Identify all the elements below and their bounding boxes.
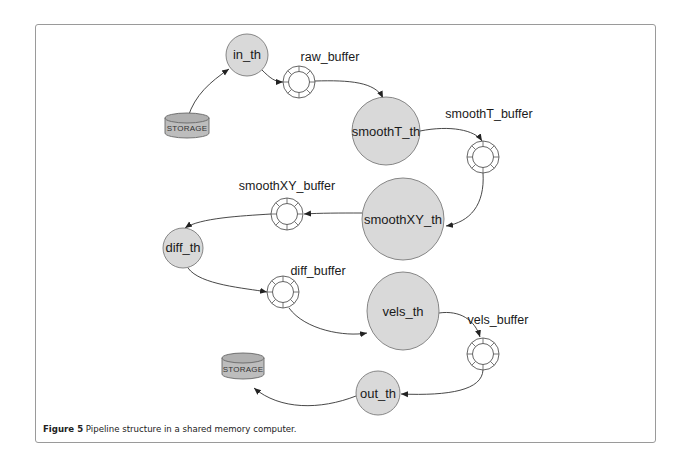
thread-vels-th: vels_th [367, 272, 439, 350]
storage-in-label: STORAGE [167, 124, 207, 133]
thread-smoothxy-th: smoothXY_th [362, 178, 444, 260]
edge-in-th-raw-buffer [262, 70, 283, 82]
edge-storage-in-th [188, 69, 229, 117]
vels-th-label: vels_th [382, 304, 423, 319]
buffer-diff: diff_buffer [267, 264, 346, 308]
out-th-label: out_th [360, 386, 396, 401]
in-th-label: in_th [233, 47, 261, 62]
edge-smootht-buffer [420, 128, 482, 141]
edge-diff-buffer-vels [289, 308, 367, 334]
storage-out-label: STORAGE [223, 365, 263, 374]
edge-diff-buffer [188, 268, 267, 292]
vels-buffer-label: vels_buffer [468, 313, 529, 327]
diff-th-label: diff_th [165, 240, 200, 255]
thread-smootht-th: smoothT_th [352, 97, 421, 165]
edge-smoothxy-buffer [304, 213, 362, 214]
edge-out-storage [254, 388, 356, 406]
smoothxy-th-label: smoothXY_th [364, 212, 442, 227]
raw-buffer-label: raw_buffer [301, 50, 360, 64]
edge-smoothxy-buffer-diff [185, 214, 271, 228]
thread-in-th: in_th [226, 34, 268, 76]
smoothxy-buffer-label: smoothXY_buffer [239, 179, 335, 193]
diff-buffer-label: diff_buffer [290, 264, 345, 278]
figure-caption: Figure 5 Pipeline structure in a shared … [43, 424, 297, 434]
smootht-th-label: smoothT_th [352, 124, 421, 139]
storage-out: STORAGE [222, 353, 264, 379]
caption-text: Pipeline structure in a shared memory co… [83, 424, 296, 434]
buffer-raw: raw_buffer [283, 50, 359, 98]
pipeline-diagram: STORAGE STORAGE in_th smoothT_th smoothX… [0, 0, 689, 464]
caption-label: Figure 5 [43, 424, 83, 434]
buffer-smoothxy: smoothXY_buffer [239, 179, 335, 230]
smootht-buffer-label: smoothT_buffer [445, 107, 532, 121]
buffer-smootht: smoothT_buffer [445, 107, 532, 173]
edge-smootht-buffer-smoothxy [446, 173, 483, 226]
edge-raw-buffer-smootht [315, 81, 383, 98]
thread-diff-th: diff_th [163, 228, 203, 268]
buffer-vels: vels_buffer [467, 313, 528, 370]
storage-in: STORAGE [165, 113, 209, 138]
thread-out-th: out_th [356, 371, 400, 415]
edge-vels-buffer-out [401, 370, 483, 394]
